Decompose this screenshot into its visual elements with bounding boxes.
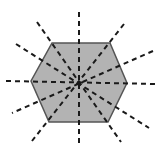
center-point	[78, 81, 81, 84]
diagram-canvas	[0, 0, 164, 153]
hexagon-symmetry-diagram: Regular hexagon with all lines of symmet…	[0, 0, 164, 153]
